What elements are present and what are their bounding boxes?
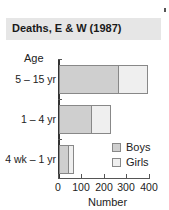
x-tick-label: 400: [140, 181, 158, 193]
x-tick-label: 0: [55, 181, 61, 193]
y-tick: [58, 59, 62, 60]
bar-boys-5-15: [59, 65, 119, 94]
x-tick: [104, 174, 105, 179]
bar-girls-4wk-1yr: [68, 145, 74, 174]
x-tick-label: 300: [117, 181, 135, 193]
legend-label-girls: Girls: [126, 156, 149, 168]
chart-title-bar: Deaths, E & W (1987): [6, 18, 161, 40]
bar-girls-1-4: [91, 105, 111, 134]
x-axis-label: Number: [88, 196, 127, 208]
legend-label-boys: Boys: [126, 141, 150, 153]
y-tick: [58, 99, 62, 100]
x-tick: [149, 174, 150, 179]
x-tick-label: 200: [95, 181, 113, 193]
page-marker: [164, 8, 166, 12]
bar-boys-1-4: [59, 105, 92, 134]
x-tick: [126, 174, 127, 179]
category-label: 4 wk – 1 yr: [0, 153, 56, 165]
x-tick-label: 100: [72, 181, 90, 193]
x-tick: [81, 174, 82, 179]
legend-swatch-girls: [112, 158, 121, 167]
legend-swatch-boys: [112, 143, 121, 152]
x-tick: [58, 174, 59, 179]
category-label: 5 – 15 yr: [0, 73, 56, 85]
y-tick: [58, 139, 62, 140]
chart-title: Deaths, E & W (1987): [12, 22, 121, 34]
y-axis-label: Age: [24, 52, 44, 64]
category-label: 1 – 4 yr: [0, 113, 56, 125]
bar-girls-5-15: [118, 65, 148, 94]
